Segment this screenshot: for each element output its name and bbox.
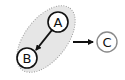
node-a-label: A — [54, 15, 63, 30]
node-a: A — [48, 12, 68, 32]
cluster-ellipse — [5, 0, 86, 80]
node-b-label: B — [23, 51, 32, 66]
diagram-canvas: A B C — [0, 0, 125, 80]
node-b: B — [17, 48, 37, 68]
node-c: C — [97, 32, 117, 52]
node-c-label: C — [102, 35, 111, 50]
